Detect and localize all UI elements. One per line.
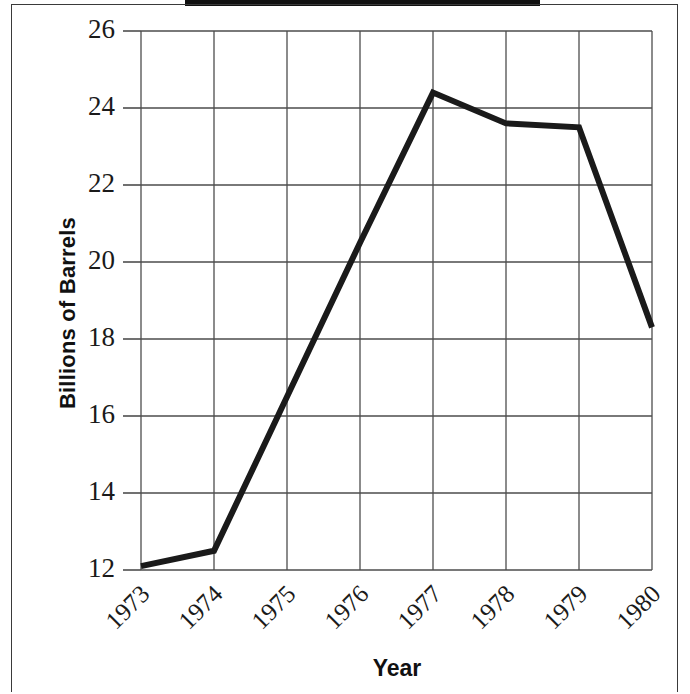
chart-figure: 1214161820222426 19731974197519761977197… bbox=[0, 0, 690, 694]
y-tick-label: 26 bbox=[53, 16, 115, 43]
x-axis-title: Year bbox=[141, 655, 653, 682]
vertical-gridlines bbox=[141, 31, 652, 570]
data-series-line bbox=[141, 93, 652, 566]
y-tick-label: 24 bbox=[53, 93, 115, 120]
y-tick-label: 14 bbox=[53, 478, 115, 505]
horizontal-gridlines bbox=[123, 31, 652, 570]
y-tick-label: 12 bbox=[53, 555, 115, 582]
y-axis-title: Billions of Barrels bbox=[55, 183, 81, 443]
